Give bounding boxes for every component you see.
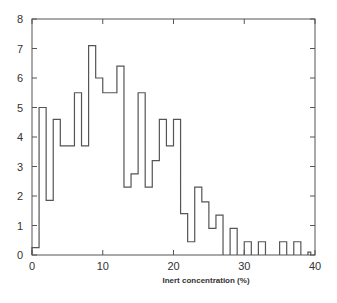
y-tick-label: 6 <box>17 72 23 84</box>
x-tick-label: 30 <box>238 260 250 272</box>
y-tick-label: 4 <box>17 131 23 143</box>
y-tick-label: 7 <box>17 43 23 55</box>
x-tick-label: 40 <box>309 260 321 272</box>
x-axis-title: Inert concentration (%) <box>162 276 249 285</box>
y-axis-tick-labels: 012345678 <box>17 13 23 261</box>
x-axis-tick-labels: 010203040 <box>29 260 321 272</box>
x-tick-label: 0 <box>29 260 35 272</box>
y-tick-label: 2 <box>17 190 23 202</box>
y-tick-label: 8 <box>17 13 23 25</box>
x-tick-label: 10 <box>97 260 109 272</box>
y-tick-label: 5 <box>17 102 23 114</box>
y-tick-label: 1 <box>17 220 23 232</box>
x-tick-label: 20 <box>167 260 179 272</box>
histogram-steps <box>32 46 311 255</box>
y-tick-label: 3 <box>17 161 23 173</box>
y-tick-label: 0 <box>17 249 23 261</box>
histogram-chart: 012345678 010203040 Inert concentration … <box>0 0 337 303</box>
